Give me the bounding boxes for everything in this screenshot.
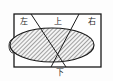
region-label-bottom: 下 <box>56 68 64 77</box>
region-label-right: 右 <box>88 17 96 26</box>
direction-regions-diagram: 左 上 右 下 <box>0 0 113 81</box>
region-label-left: 左 <box>20 17 28 26</box>
region-label-top: 上 <box>54 17 62 26</box>
